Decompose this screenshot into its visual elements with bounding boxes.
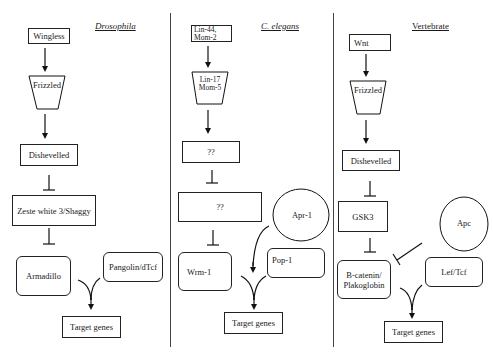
c-elegans-title: C. elegans	[261, 21, 299, 31]
target-genes-label: Target genes	[392, 327, 435, 337]
zw3-shaggy-box: Zeste white 3/Shaggy	[12, 195, 96, 226]
lin44-mom2-box: Lin-44, Mom-2	[191, 25, 232, 42]
dishevelled-label: Dishevelled	[29, 150, 70, 160]
c-elegans-target-genes-box: Target genes	[224, 312, 283, 334]
mom5-label: Mom-5	[194, 84, 226, 92]
frizzled-label: Frizzled	[30, 80, 64, 90]
apc-label: Apc	[446, 218, 482, 228]
unknown-step4-label: ??	[216, 202, 224, 212]
apr1-label: Apr-1	[282, 210, 322, 220]
wingless-label: Wingless	[33, 31, 64, 41]
pangolin-dtcf-label: Pangolin/dTcf	[109, 262, 157, 272]
target-genes-label: Target genes	[70, 322, 113, 332]
wingless-box: Wingless	[28, 28, 70, 44]
wnt-label: Wnt	[354, 38, 369, 48]
dishevelled-box: Dishevelled	[20, 144, 78, 166]
drosophila-target-genes-box: Target genes	[62, 316, 121, 338]
lef-tcf-box: Lef/Tcf	[425, 257, 483, 287]
pop1-box: Pop-1	[267, 248, 325, 278]
mom2-label: Mom-2	[194, 34, 217, 42]
wnt-box: Wnt	[349, 34, 391, 51]
pathway-arrows	[0, 0, 493, 361]
pangolin-dtcf-box: Pangolin/dTcf	[103, 252, 163, 282]
vertebrate-dishevelled-box: Dishevelled	[342, 150, 400, 171]
b-catenin-label: B-catenin/	[346, 270, 381, 280]
vertebrate-title: Vertebrate	[412, 21, 449, 31]
vertebrate-target-genes-box: Target genes	[384, 321, 443, 343]
plakoglobin-label: Plakoglobin	[343, 280, 384, 290]
vertebrate-frizzled-label: Frizzled	[351, 85, 385, 95]
zw3-shaggy-label: Zeste white 3/Shaggy	[17, 206, 91, 216]
b-catenin-plakoglobin-box: B-catenin/ Plakoglobin	[337, 260, 391, 299]
unknown-step3-box: ??	[182, 141, 240, 163]
armadillo-label: Armadillo	[26, 271, 61, 281]
vertebrate-dishevelled-label: Dishevelled	[351, 156, 392, 166]
unknown-step4-box: ??	[178, 192, 262, 222]
gsk3-box: GSK3	[338, 201, 388, 232]
pop1-label: Pop-1	[272, 255, 292, 265]
lin17-mom5-label: Lin-17 Mom-5	[194, 76, 226, 92]
wrm1-label: Wrm-1	[187, 267, 211, 277]
armadillo-box: Armadillo	[16, 256, 71, 296]
drosophila-title: Drosophila	[95, 21, 136, 31]
lef-tcf-label: Lef/Tcf	[441, 267, 466, 277]
wrm1-box: Wrm-1	[178, 252, 232, 291]
gsk3-label: GSK3	[352, 212, 373, 222]
unknown-step3-label: ??	[207, 147, 215, 157]
target-genes-label: Target genes	[232, 318, 275, 328]
